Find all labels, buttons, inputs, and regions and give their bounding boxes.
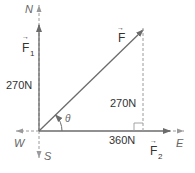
west-label: W (14, 137, 26, 149)
compass-axes (16, 5, 184, 158)
resultant-arrow-accent: → (117, 24, 124, 31)
angle-arc (56, 115, 63, 131)
vector-resultant (39, 30, 143, 131)
f2-label: → F 2 (150, 137, 163, 161)
f1-label: → F 1 (22, 33, 35, 58)
resultant-label: → F (117, 24, 125, 45)
angle-theta-label: θ (65, 113, 71, 124)
right-angle-marker (134, 123, 143, 131)
f2-symbol: F (150, 144, 157, 158)
vertical-component-magnitude: 270N (110, 97, 136, 109)
f1-magnitude: 270N (6, 79, 32, 91)
f1-arrow-accent: → (22, 33, 29, 40)
f2-subscript: 2 (158, 152, 163, 161)
resultant-symbol: F (118, 31, 125, 45)
north-label: N (25, 3, 33, 15)
f1-symbol: F (22, 41, 29, 55)
force-diagram: N S W E → F 1 270N → F 270N θ 360N → F 2 (0, 0, 195, 173)
east-label: E (176, 137, 184, 149)
f1-subscript: 1 (30, 49, 35, 58)
south-label: S (44, 150, 52, 162)
f2-magnitude: 360N (109, 134, 135, 146)
f2-arrow-accent: → (150, 137, 157, 144)
